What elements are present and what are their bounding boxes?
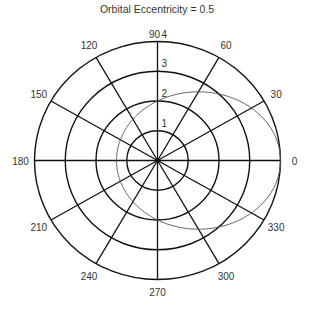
- grid-spoke: [96, 57, 158, 160]
- grid-spoke: [158, 101, 265, 161]
- polar-grid: [35, 42, 281, 280]
- angle-tick-label: 0: [292, 156, 298, 167]
- grid-spoke: [158, 161, 265, 221]
- angle-tick-label: 210: [31, 222, 48, 233]
- angle-tick-label: 120: [81, 40, 98, 51]
- angle-tick-label: 330: [268, 222, 285, 233]
- angle-tick-label: 270: [149, 287, 166, 298]
- angle-tick-label: 300: [218, 271, 235, 282]
- radial-tick-label: 1: [162, 118, 168, 129]
- radial-tick-label: 3: [162, 58, 168, 69]
- angle-tick-label: 240: [81, 271, 98, 282]
- angle-tick-label: 30: [271, 89, 283, 100]
- grid-spoke: [96, 161, 158, 264]
- grid-spoke: [51, 101, 158, 161]
- angle-tick-labels: 0306090120150180210240270300330: [12, 29, 298, 298]
- radial-tick-labels: 1234: [162, 29, 168, 129]
- angle-tick-label: 180: [12, 156, 29, 167]
- polar-plot: Orbital Eccentricity = 0.5 1234 03060901…: [0, 0, 315, 309]
- angle-tick-label: 90: [149, 29, 161, 40]
- grid-spoke: [158, 57, 220, 160]
- grid-spoke: [158, 161, 220, 264]
- angle-tick-label: 60: [220, 40, 232, 51]
- chart-title: Orbital Eccentricity = 0.5: [100, 3, 214, 15]
- grid-spoke: [51, 161, 158, 221]
- angle-tick-label: 150: [31, 89, 48, 100]
- radial-tick-label: 4: [162, 29, 168, 40]
